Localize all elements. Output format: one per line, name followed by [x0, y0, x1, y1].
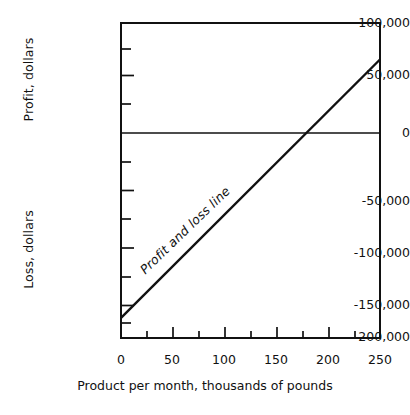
profit-and-loss-line: [121, 60, 380, 318]
y-axis-major-ticks: [121, 76, 134, 306]
profit-loss-chart: Profit, dollars Loss, dollars 100,000 50…: [0, 0, 410, 415]
plot-frame: [121, 23, 380, 338]
x-axis-minor-ticks: [147, 331, 355, 338]
y-axis-minor-ticks: [121, 49, 131, 323]
x-axis-title: Product per month, thousands of pounds: [0, 378, 410, 393]
